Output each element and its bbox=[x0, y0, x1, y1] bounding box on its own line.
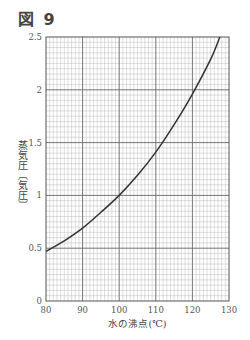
x-tick-label: 80 bbox=[41, 305, 52, 315]
y-tick-labels: 00.511.522.5 bbox=[28, 32, 42, 306]
y-tick-label: 1.5 bbox=[28, 138, 42, 148]
y-tick-label: 2.5 bbox=[28, 32, 42, 42]
x-tick-label: 120 bbox=[184, 305, 200, 315]
y-tick-label: 2 bbox=[37, 85, 42, 95]
x-tick-label: 100 bbox=[111, 305, 127, 315]
y-tick-label: 0.5 bbox=[28, 243, 42, 253]
x-tick-label: 90 bbox=[77, 305, 88, 315]
x-tick-label: 130 bbox=[221, 305, 237, 315]
series-group bbox=[46, 37, 220, 251]
y-tick-label: 1 bbox=[37, 190, 42, 200]
x-tick-label: 110 bbox=[148, 305, 164, 315]
vapor-pressure-curve bbox=[46, 37, 220, 251]
x-axis-label: 水の沸点(℃) bbox=[108, 318, 166, 329]
vapor-pressure-chart: 00.511.522.5 8090100110120130 水の沸点(℃) bbox=[0, 0, 250, 340]
x-tick-labels: 8090100110120130 bbox=[41, 305, 238, 315]
